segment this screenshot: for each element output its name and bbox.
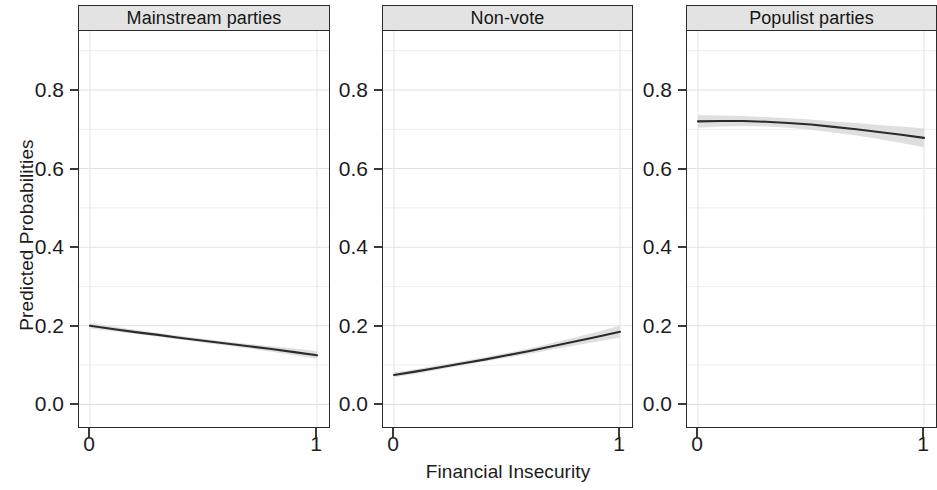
panel-title-2: Non-vote [471,8,545,29]
x-tick-label: 1 [613,432,625,456]
plot-area-3 [686,31,937,428]
panel-title-3: Populist parties [749,8,874,29]
panel-populist-parties: Populist parties [686,5,937,428]
x-tick-label: 0 [387,432,399,456]
y-tick-mark [70,89,78,91]
y-tick-mark [678,246,686,248]
panel-strip-header-3: Populist parties [686,5,937,31]
x-tick-label: 1 [917,432,929,456]
plot-svg-3 [687,31,937,428]
x-tick-label: 0 [691,432,703,456]
y-tick-mark [678,403,686,405]
plot-area-1 [78,31,330,428]
confidence-band [698,115,924,147]
x-tick-label: 1 [310,432,322,456]
y-tick-mark [678,325,686,327]
panel-title-1: Mainstream parties [127,8,282,29]
y-tick-label: 0.2 [8,314,64,338]
y-tick-mark [70,403,78,405]
y-tick-label: 0.0 [8,392,64,416]
x-tick-label: 0 [83,432,95,456]
y-tick-mark [70,168,78,170]
y-tick-mark [678,168,686,170]
y-tick-label: 0.4 [8,235,64,259]
y-tick-mark [70,325,78,327]
plot-svg-1 [79,31,330,428]
y-tick-mark [374,168,382,170]
plot-area-2 [382,31,633,428]
y-tick-mark [70,246,78,248]
y-tick-mark [374,89,382,91]
y-axis-ticks-panel-1: 0.00.20.40.60.8 [4,0,78,490]
y-tick-mark [374,246,382,248]
y-tick-mark [374,325,382,327]
panel-non-vote: Non-vote [382,5,633,428]
x-axis-title: Financial Insecurity [382,461,634,483]
prediction-line [90,326,317,355]
y-tick-mark [374,403,382,405]
panel-strip-header-1: Mainstream parties [78,5,330,31]
y-tick-label: 0.6 [8,157,64,181]
plot-svg-2 [383,31,633,428]
y-tick-label: 0.8 [8,78,64,102]
panel-strip-header-2: Non-vote [382,5,633,31]
panel-mainstream-parties: Mainstream parties [78,5,330,428]
y-tick-mark [678,89,686,91]
